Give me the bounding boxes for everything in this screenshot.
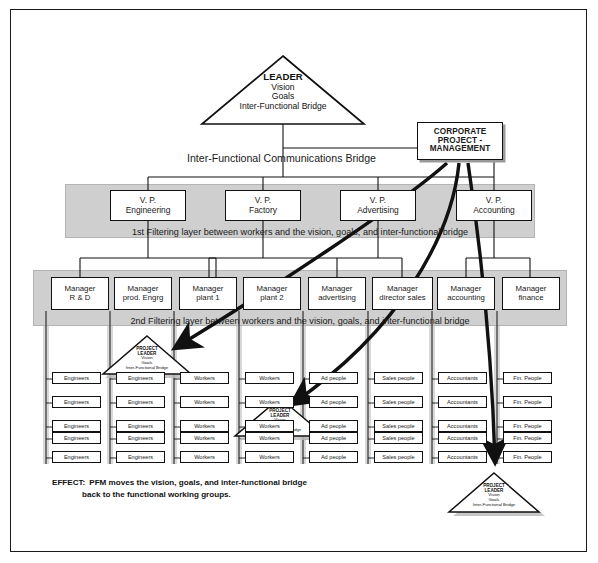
worker-box-engineers-1[interactable]: Engineers [52,372,101,384]
worker-box-label: Workers [194,375,215,381]
worker-box-label: Workers [259,375,280,381]
worker-box-sales-people-4[interactable]: Sales people [374,432,423,444]
worker-box-engineers-1[interactable]: Engineers [116,372,165,384]
worker-box-sales-people-1[interactable]: Sales people [374,372,423,384]
effect-lead: EFFECT: [52,478,85,487]
worker-box-label: Engineers [128,399,153,405]
worker-box-label: Sales people [382,454,414,460]
worker-box-workers-2[interactable]: Workers [245,396,294,408]
worker-box-accountants-1[interactable]: Accountants [438,372,487,384]
worker-box-label: Engineers [64,375,89,381]
diagram-canvas: LEADER Vision Goals Inter-Functional Bri… [0,0,598,563]
manager-box-finance[interactable]: Manager finance [502,277,560,310]
worker-box-sales-people-5[interactable]: Sales people [374,451,423,463]
worker-box-workers-4[interactable]: Workers [245,432,294,444]
worker-box-label: Workers [259,399,280,405]
worker-box-engineers-2[interactable]: Engineers [116,396,165,408]
worker-box-workers-3[interactable]: Workers [245,420,294,432]
worker-box-ad-people-1[interactable]: Ad people [309,372,358,384]
worker-box-workers-5[interactable]: Workers [245,451,294,463]
worker-box-workers-3[interactable]: Workers [180,420,229,432]
filter-band-1-label: 1st Filtering layer between workers and … [65,227,535,237]
worker-box-label: Ad people [321,435,346,441]
worker-box-label: Engineers [64,399,89,405]
worker-box-label: Accountants [447,423,478,429]
mgr2-line2: plant 1 [196,294,219,302]
worker-box-engineers-5[interactable]: Engineers [52,451,101,463]
worker-box-sales-people-2[interactable]: Sales people [374,396,423,408]
worker-box-engineers-4[interactable]: Engineers [52,432,101,444]
worker-box-label: Accountants [447,375,478,381]
manager-box-prod-engrg[interactable]: Manager prod. Engrg [114,277,172,310]
worker-box-label: Sales people [382,399,414,405]
worker-box-engineers-4[interactable]: Engineers [116,432,165,444]
corporate-project-management-box[interactable]: CORPORATE PROJECT - MANAGEMENT [417,122,503,160]
worker-box-accountants-5[interactable]: Accountants [438,451,487,463]
vp0-line2: Engineering [126,206,171,215]
manager-box-advertising[interactable]: Manager advertising [308,277,366,310]
manager-box-plant-2[interactable]: Manager plant 2 [243,277,301,310]
worker-box-accountants-4[interactable]: Accountants [438,432,487,444]
inter-functional-communications-bridge-label: Inter-Functional Communications Bridge [187,152,376,164]
project-leader-triangle-3 [449,473,539,512]
worker-box-workers-1[interactable]: Workers [180,372,229,384]
worker-box-label: Sales people [382,375,414,381]
manager-box-accounting[interactable]: Manager accounting [437,277,495,310]
mgr4-line2: advertising [318,294,356,302]
filter-band-2-label: 2nd Filtering layer between workers and … [33,316,567,326]
project-leader-triangle-1 [103,336,191,374]
worker-box-fin-people-2[interactable]: Fin. People [503,396,552,408]
worker-box-workers-2[interactable]: Workers [180,396,229,408]
worker-box-label: Ad people [321,375,346,381]
vp3-line2: Accounting [473,206,514,215]
worker-box-ad-people-4[interactable]: Ad people [309,432,358,444]
worker-box-ad-people-5[interactable]: Ad people [309,451,358,463]
worker-box-engineers-3[interactable]: Engineers [116,420,165,432]
worker-box-fin-people-1[interactable]: Fin. People [503,372,552,384]
worker-box-accountants-3[interactable]: Accountants [438,420,487,432]
worker-box-label: Accountants [447,435,478,441]
worker-box-engineers-3[interactable]: Engineers [52,420,101,432]
worker-box-fin-people-5[interactable]: Fin. People [503,451,552,463]
worker-box-ad-people-2[interactable]: Ad people [309,396,358,408]
worker-box-label: Sales people [382,423,414,429]
worker-box-label: Sales people [382,435,414,441]
mgr5-line2: director sales [379,294,425,302]
cpm-line3: MANAGEMENT [430,145,491,154]
worker-box-label: Workers [194,399,215,405]
worker-box-label: Ad people [321,399,346,405]
manager-box-director-sales[interactable]: Manager director sales [372,277,433,310]
worker-box-workers-1[interactable]: Workers [245,372,294,384]
worker-box-accountants-2[interactable]: Accountants [438,396,487,408]
mgr1-line2: prod. Engrg [123,294,164,302]
worker-box-label: Engineers [128,375,153,381]
vp-box-accounting[interactable]: V. P. Accounting [456,190,532,221]
worker-box-label: Engineers [64,423,89,429]
effect-line2: back to the functional working groups. [82,489,307,501]
vp-box-factory[interactable]: V. P. Factory [225,190,301,221]
effect-note: EFFECT:PFM moves the vision, goals, and … [52,477,307,500]
mgr0-line2: R & D [70,294,91,302]
worker-box-workers-5[interactable]: Workers [180,451,229,463]
worker-box-engineers-2[interactable]: Engineers [52,396,101,408]
worker-box-label: Engineers [64,435,89,441]
vp-box-advertising[interactable]: V. P. Advertising [340,190,416,221]
mgr3-line2: plant 2 [260,294,283,302]
worker-box-workers-4[interactable]: Workers [180,432,229,444]
mgr7-line2: finance [518,294,543,302]
worker-box-fin-people-4[interactable]: Fin. People [503,432,552,444]
worker-box-label: Workers [259,435,280,441]
manager-box-r-and-d[interactable]: Manager R & D [51,277,109,310]
worker-box-fin-people-3[interactable]: Fin. People [503,420,552,432]
worker-box-label: Engineers [128,435,153,441]
worker-box-engineers-5[interactable]: Engineers [116,451,165,463]
worker-box-ad-people-3[interactable]: Ad people [309,420,358,432]
worker-box-sales-people-3[interactable]: Sales people [374,420,423,432]
manager-box-plant-1[interactable]: Manager plant 1 [179,277,237,310]
vp-box-engineering[interactable]: V. P. Engineering [110,190,186,221]
mgr6-line2: accounting [447,294,485,302]
worker-box-label: Engineers [64,454,89,460]
effect-line1: PFM moves the vision, goals, and inter-f… [89,478,307,487]
worker-box-label: Accountants [447,399,478,405]
worker-box-label: Workers [194,435,215,441]
